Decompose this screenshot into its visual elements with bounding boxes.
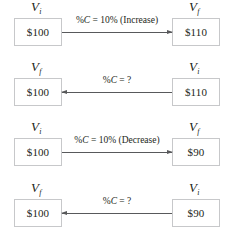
variable-symbol: V bbox=[189, 119, 197, 134]
value-box-left: $100 bbox=[14, 18, 62, 46]
percent-sign: % bbox=[76, 15, 84, 25]
variable-subscript: i bbox=[39, 127, 41, 136]
value-box-right: $110 bbox=[172, 78, 220, 106]
arrow-right-icon bbox=[62, 30, 172, 35]
percent-change-label: %C = 10% (Decrease) bbox=[62, 136, 172, 146]
variable-subscript: f bbox=[197, 7, 199, 16]
variable-symbol: V bbox=[189, 0, 197, 14]
percent-change-label: %C = 10% (Increase) bbox=[62, 16, 172, 26]
value-box-right: $90 bbox=[172, 138, 220, 166]
value-text: $110 bbox=[185, 26, 207, 38]
value-text: $100 bbox=[27, 86, 49, 98]
variable-symbol: V bbox=[31, 59, 39, 74]
value-box-left: $100 bbox=[14, 138, 62, 166]
variable-label-left: Vf bbox=[31, 181, 41, 194]
value-text: $100 bbox=[27, 207, 49, 219]
value-text: $90 bbox=[188, 146, 205, 158]
variable-label-left: Vi bbox=[31, 0, 41, 13]
variable-label-right: Vf bbox=[189, 0, 199, 13]
panel-decrease-unknown: Vf Vi $100 $90 %C = ? bbox=[0, 181, 225, 241]
variable-label-right: Vi bbox=[189, 60, 199, 73]
variable-label-right: Vf bbox=[189, 120, 199, 133]
arrow-shaft bbox=[62, 213, 172, 214]
percent-sign: % bbox=[103, 75, 111, 85]
variable-symbol: V bbox=[189, 180, 197, 195]
value-box-left: $100 bbox=[14, 78, 62, 106]
arrow-right-icon bbox=[62, 150, 172, 155]
arrow-head bbox=[61, 90, 67, 94]
variable-subscript: f bbox=[39, 188, 41, 197]
percent-change-diagram: Vi Vf $100 $110 %C = 10% (Increase) Vf V… bbox=[0, 0, 225, 243]
variable-label-right: Vi bbox=[189, 181, 199, 194]
variable-subscript: f bbox=[197, 127, 199, 136]
variable-symbol: V bbox=[31, 180, 39, 195]
variable-subscript: f bbox=[39, 67, 41, 76]
percent-change-expression: = ? bbox=[117, 196, 131, 206]
percent-change-expression: = ? bbox=[117, 75, 131, 85]
percent-change-label: %C = ? bbox=[62, 76, 172, 86]
variable-symbol: V bbox=[189, 59, 197, 74]
value-text: $90 bbox=[188, 207, 205, 219]
variable-label-left: Vf bbox=[31, 60, 41, 73]
variable-label-left: Vi bbox=[31, 120, 41, 133]
value-box-right: $110 bbox=[172, 18, 220, 46]
value-box-right: $90 bbox=[172, 199, 220, 227]
panel-increase-known: Vi Vf $100 $110 %C = 10% (Increase) bbox=[0, 0, 225, 60]
percent-sign: % bbox=[103, 196, 111, 206]
variable-symbol: V bbox=[31, 0, 39, 14]
arrow-shaft bbox=[62, 32, 172, 33]
panel-decrease-known: Vi Vf $100 $90 %C = 10% (Decrease) bbox=[0, 120, 225, 180]
arrow-head bbox=[167, 30, 173, 34]
arrow-left-icon bbox=[62, 90, 172, 95]
arrow-shaft bbox=[62, 152, 172, 153]
value-text: $100 bbox=[27, 26, 49, 38]
variable-subscript: i bbox=[39, 7, 41, 16]
value-text: $110 bbox=[185, 86, 207, 98]
percent-change-label: %C = ? bbox=[62, 197, 172, 207]
arrow-head bbox=[61, 211, 67, 215]
arrow-left-icon bbox=[62, 211, 172, 216]
value-text: $100 bbox=[27, 146, 49, 158]
variable-subscript: i bbox=[197, 188, 199, 197]
variable-subscript: i bbox=[197, 67, 199, 76]
variable-symbol: V bbox=[31, 119, 39, 134]
percent-change-expression: = 10% (Decrease) bbox=[89, 135, 160, 145]
value-box-left: $100 bbox=[14, 199, 62, 227]
arrow-head bbox=[167, 150, 173, 154]
percent-change-expression: = 10% (Increase) bbox=[90, 15, 158, 25]
arrow-shaft bbox=[62, 92, 172, 93]
panel-increase-unknown: Vf Vi $100 $110 %C = ? bbox=[0, 60, 225, 120]
